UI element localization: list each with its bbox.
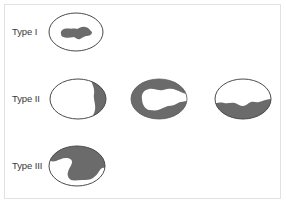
type-3-ellipse — [48, 145, 108, 186]
type-2-ellipse-a — [50, 78, 110, 121]
type-2-ellipse-c — [212, 79, 274, 122]
type-2-ellipse-b — [131, 79, 190, 119]
diagram-art — [0, 0, 286, 204]
type-1-ellipse — [49, 13, 103, 51]
